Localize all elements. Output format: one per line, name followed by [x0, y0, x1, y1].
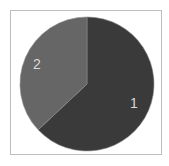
pie-slices [20, 17, 154, 151]
slice-label-2: 2 [33, 56, 41, 72]
pie-chart: 1 2 [0, 0, 169, 166]
slice-label-1: 1 [130, 95, 138, 111]
